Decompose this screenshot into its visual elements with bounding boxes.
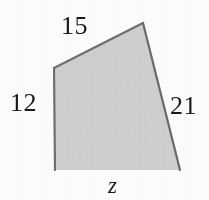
side-length-label-left: 12 [10,90,37,116]
side-length-label-bottom-unknown: z [108,174,117,197]
side-length-label-top: 15 [61,13,88,39]
side-length-label-right: 21 [170,93,197,119]
geometry-figure: 15 12 21 z [0,0,209,200]
side-left-edge [54,68,55,170]
